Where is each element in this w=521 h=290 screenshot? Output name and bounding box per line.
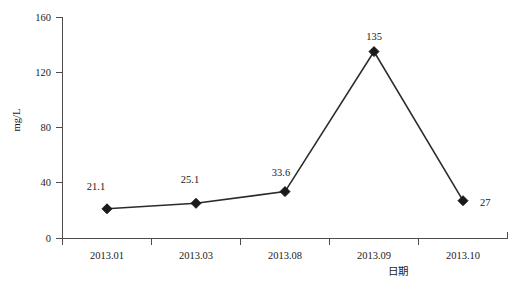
y-tick-label-40: 40 xyxy=(41,177,52,188)
x-tick-label-1: 2013.01 xyxy=(90,250,124,261)
data-point-label-5: 27 xyxy=(480,197,491,208)
y-tick-label-0: 0 xyxy=(46,233,51,244)
y-axis-title: mg/L xyxy=(11,109,22,132)
x-tick-label-4: 2013.09 xyxy=(357,250,391,261)
data-point-label-4: 135 xyxy=(366,31,382,42)
y-tick-label-160: 160 xyxy=(35,12,51,23)
data-point-label-1: 21.1 xyxy=(87,181,105,192)
x-tick-label-5: 2013.10 xyxy=(446,250,480,261)
x-axis-title: 日期 xyxy=(388,266,408,277)
y-tick-label-120: 120 xyxy=(35,67,51,78)
data-point-label-3: 33.6 xyxy=(272,167,290,178)
y-tick-label-80: 80 xyxy=(41,122,52,133)
chart-canvas: 160 120 80 40 0 mg/L 2013.01 2013.03 201… xyxy=(0,0,521,290)
x-tick-label-3: 2013.08 xyxy=(268,250,302,261)
line-chart: 160 120 80 40 0 mg/L 2013.01 2013.03 201… xyxy=(0,0,521,290)
chart-background xyxy=(0,0,521,290)
data-point-label-2: 25.1 xyxy=(181,174,199,185)
x-tick-label-2: 2013.03 xyxy=(179,250,213,261)
